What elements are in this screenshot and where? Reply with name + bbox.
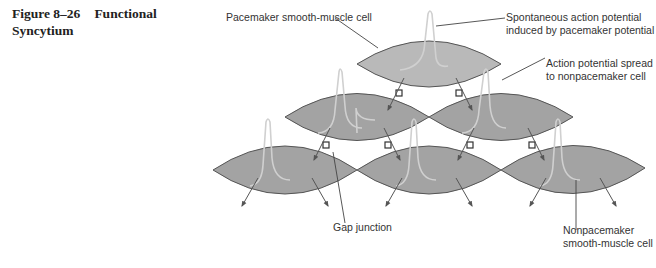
gap-junction-icon [456,90,462,96]
nonpacemaker-cell-row3-left [213,146,357,194]
label-ap-spread: Action potential spread to nonpacemaker … [546,57,653,83]
label-pacemaker-cell: Pacemaker smooth-muscle cell [226,11,372,24]
gap-junction-icon [385,142,391,148]
pacemaker-cell [357,41,501,87]
gap-junction-icon [529,142,535,148]
gap-junction-icon [323,142,329,148]
nonpacemaker-cell-row2-right [429,94,573,141]
nonpacemaker-cell-row3-right [501,145,645,193]
gap-junction-icon [467,142,473,148]
syncytium-diagram [0,0,656,268]
label-spontaneous-ap: Spontaneous action potential induced by … [506,11,654,37]
nonpacemaker-cell-row3-middle [357,146,501,194]
label-gap-junction: Gap junction [333,221,392,234]
label-nonpacemaker-cell: Nonpacemaker smooth-muscle cell [563,224,653,250]
